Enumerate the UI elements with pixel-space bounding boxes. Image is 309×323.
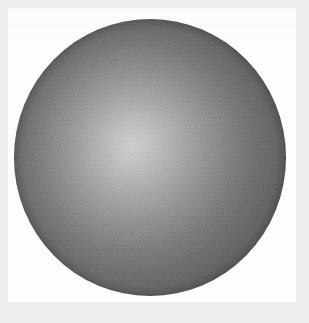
sphere-shape	[14, 19, 286, 296]
sphere-grain-texture	[14, 19, 286, 296]
sphere-scan-banding	[14, 19, 286, 296]
figure-caption: Grayscale rendering of a diffusely lit s…	[0, 0, 1, 1]
sphere-stage	[8, 8, 296, 302]
figure-frame: Grayscale rendering of a diffusely lit s…	[0, 0, 309, 323]
figure-panel	[8, 8, 296, 302]
sphere-rim-darkening	[14, 19, 286, 296]
sphere-limb-shading	[14, 19, 286, 296]
